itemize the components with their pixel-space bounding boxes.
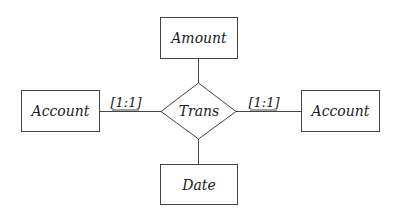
entity-account-left[interactable]: Account <box>22 91 100 132</box>
cardinality-left-label: [1:1] <box>110 95 142 110</box>
relationship-trans-label: Trans <box>179 103 220 119</box>
entity-account-left-label: Account <box>30 103 90 119</box>
entity-account-right[interactable]: Account <box>302 91 380 132</box>
er-diagram: Amount Account Account Date Trans [1:1] … <box>0 0 397 219</box>
cardinality-left: [1:1] <box>110 95 142 110</box>
cardinality-right-label: [1:1] <box>248 95 280 110</box>
cardinality-right: [1:1] <box>248 95 280 110</box>
entity-date-label: Date <box>181 177 215 193</box>
entity-amount-label: Amount <box>169 30 227 46</box>
entity-account-right-label: Account <box>310 103 370 119</box>
relationship-trans[interactable]: Trans <box>161 83 236 139</box>
entity-date[interactable]: Date <box>161 165 238 205</box>
entity-amount[interactable]: Amount <box>161 18 238 59</box>
